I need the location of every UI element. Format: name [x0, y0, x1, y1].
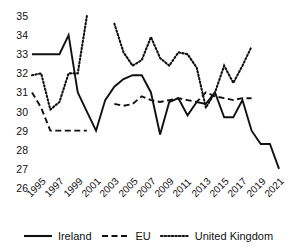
legend-label: Ireland — [58, 231, 92, 242]
legend-label: United Kingdom — [195, 231, 273, 242]
legend-swatch-dotted — [160, 231, 190, 241]
y-axis-tick-label: 34 — [6, 30, 28, 41]
series-line — [114, 92, 251, 105]
y-axis-tick-label: 33 — [6, 49, 28, 60]
series-line — [32, 92, 87, 130]
series-line — [32, 35, 279, 169]
chart-legend: IrelandEUUnited Kingdom — [0, 224, 296, 248]
legend-swatch-dashed — [101, 231, 131, 241]
line-chart: 35343332313029282726 1995199719992001200… — [0, 0, 296, 248]
y-axis-tick-label: 27 — [6, 164, 28, 175]
legend-item-eu[interactable]: EU — [101, 231, 151, 242]
legend-item-united-kingdom[interactable]: United Kingdom — [160, 231, 273, 242]
series-ireland — [32, 35, 279, 169]
y-axis-tick-label: 29 — [6, 126, 28, 137]
y-axis-tick-label: 30 — [6, 107, 28, 118]
y-axis-tick-label: 28 — [6, 145, 28, 156]
legend-label: EU — [136, 231, 151, 242]
y-axis-tick-label: 35 — [6, 11, 28, 22]
y-axis-tick-label: 31 — [6, 87, 28, 98]
series-eu — [32, 92, 252, 130]
legend-swatch-solid — [23, 231, 53, 241]
legend-item-ireland[interactable]: Ireland — [23, 231, 92, 242]
plot-area — [29, 0, 293, 196]
y-axis-tick-label: 32 — [6, 68, 28, 79]
plot-svg — [29, 0, 293, 196]
series-line — [114, 24, 251, 108]
